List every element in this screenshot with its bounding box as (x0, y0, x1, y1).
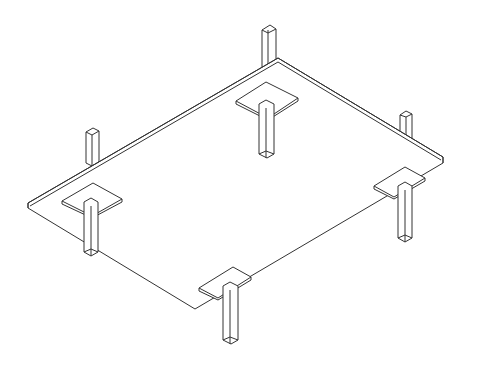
column-stub-left (86, 128, 99, 166)
diagram-canvas: Flat slab with drop panels and columns (… (0, 0, 487, 366)
flat-slab-diagram (0, 0, 487, 366)
